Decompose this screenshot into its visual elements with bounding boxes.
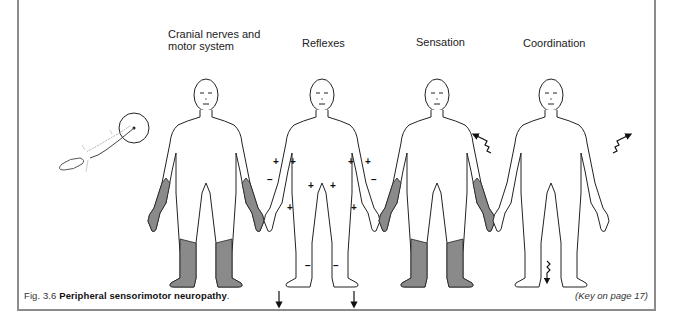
svg-text:+: + bbox=[365, 156, 371, 167]
svg-text:+: + bbox=[290, 156, 296, 167]
caption-prefix: Fig. 3.6 bbox=[24, 290, 56, 301]
caption-suffix: . bbox=[227, 290, 230, 301]
panel-label-cranial: Cranial nerves and motor system bbox=[168, 28, 260, 52]
panel-label-sensation: Sensation bbox=[416, 36, 465, 48]
figure-caption: Fig. 3.6 Peripheral sensorimotor neuropa… bbox=[24, 290, 230, 301]
svg-text:+: + bbox=[273, 156, 279, 167]
svg-text:−: − bbox=[371, 174, 377, 185]
body-sensation bbox=[379, 79, 495, 287]
svg-text:+: + bbox=[330, 180, 336, 191]
panel-label-line1: Cranial nerves and bbox=[168, 28, 260, 40]
svg-text:+: + bbox=[287, 202, 293, 213]
panel-label-coordination: Coordination bbox=[523, 37, 585, 49]
panel-label-line2: motor system bbox=[168, 40, 260, 52]
body-coordination bbox=[475, 79, 629, 287]
svg-text:−: − bbox=[305, 260, 311, 271]
svg-text:+: + bbox=[308, 180, 314, 191]
body-cranial-motor bbox=[148, 79, 264, 287]
panel-label-reflexes: Reflexes bbox=[302, 37, 345, 49]
svg-text:+: + bbox=[351, 202, 357, 213]
nerve-inset bbox=[59, 113, 149, 172]
key-reference: (Key on page 17) bbox=[575, 290, 648, 301]
caption-title: Peripheral sensorimotor neuropathy bbox=[59, 290, 227, 301]
svg-text:−: − bbox=[333, 260, 339, 271]
svg-text:+: + bbox=[348, 156, 354, 167]
body-reflexes: ++ ++ −− ++ ++ −− bbox=[264, 79, 380, 305]
svg-text:−: − bbox=[267, 174, 273, 185]
